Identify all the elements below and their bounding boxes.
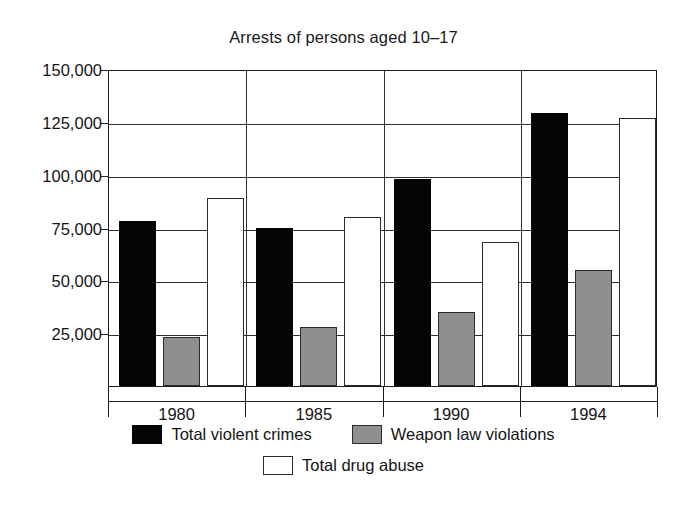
black-square-swatch — [132, 425, 162, 444]
legend-entry[interactable]: Total violent crimes — [132, 425, 311, 444]
group-divider — [521, 71, 522, 386]
y-axis-tick-mark — [101, 123, 108, 124]
y-axis-tick-label: 25,000 — [2, 325, 102, 344]
group-divider — [384, 71, 385, 386]
bar-1990-drug — [482, 242, 519, 386]
x-axis-tick-label: 1980 — [158, 405, 195, 424]
bar-1994-weapon — [575, 270, 612, 386]
x-axis-tick-mark — [657, 387, 658, 417]
white-square-swatch — [263, 456, 293, 475]
legend-entry[interactable]: Total drug abuse — [263, 456, 424, 475]
y-axis-tick-label: 125,000 — [2, 113, 102, 132]
x-axis-tick-label: 1994 — [570, 405, 607, 424]
legend-row: Total drug abuse — [0, 456, 687, 475]
bar-chart-figure: Arrests of persons aged 10–17 150,000125… — [0, 0, 687, 515]
bar-1990-violent — [394, 179, 431, 386]
x-axis-tick-label: 1990 — [433, 405, 470, 424]
y-axis-tick-mark — [101, 70, 108, 71]
x-axis-tick-mark — [108, 387, 109, 417]
bar-1990-weapon — [438, 312, 475, 386]
bar-1985-weapon — [300, 327, 337, 386]
legend-label: Weapon law violations — [391, 425, 555, 444]
gridline — [109, 124, 656, 125]
x-axis-tick-mark — [383, 387, 384, 417]
legend-entry[interactable]: Weapon law violations — [352, 425, 555, 444]
y-axis-tick-mark — [101, 281, 108, 282]
bar-1994-drug — [619, 118, 656, 386]
bar-1980-weapon — [163, 337, 200, 386]
legend-label: Total drug abuse — [302, 456, 424, 475]
x-axis: 1980198519901994 — [108, 387, 657, 421]
group-divider — [246, 71, 247, 386]
y-axis-tick-label: 100,000 — [2, 166, 102, 185]
legend-label: Total violent crimes — [171, 425, 311, 444]
bar-1980-drug — [207, 198, 244, 386]
y-axis-tick-label: 75,000 — [2, 219, 102, 238]
bar-1985-drug — [344, 217, 381, 386]
gridline — [109, 177, 656, 178]
y-axis-tick-label: 150,000 — [2, 61, 102, 80]
chart-title: Arrests of persons aged 10–17 — [0, 28, 687, 47]
bar-1980-violent — [119, 221, 156, 386]
bar-1994-violent — [531, 113, 568, 386]
x-axis-tick-label: 1985 — [296, 405, 333, 424]
x-axis-tick-mark — [520, 387, 521, 417]
legend-row: Total violent crimesWeapon law violation… — [0, 425, 687, 444]
plot-area — [108, 70, 657, 387]
bar-1985-violent — [256, 228, 293, 387]
gridline — [109, 230, 656, 231]
y-axis-tick-mark — [101, 334, 108, 335]
y-axis-tick-mark — [101, 176, 108, 177]
x-axis-tick-mark — [245, 387, 246, 417]
y-axis-tick-label: 50,000 — [2, 272, 102, 291]
chart-legend: Total violent crimesWeapon law violation… — [0, 425, 687, 475]
gray-square-swatch — [352, 425, 382, 444]
y-axis-tick-mark — [101, 229, 108, 230]
